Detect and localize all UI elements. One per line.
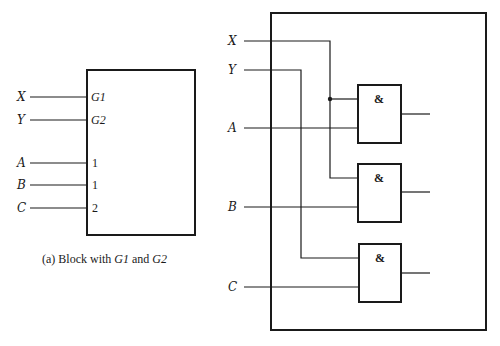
wire-y (244, 70, 359, 258)
caption-g1: G1 (114, 252, 129, 266)
input-label-y: Y (228, 63, 237, 77)
pin-label-a: 1 (92, 156, 98, 170)
input-label-c: C (228, 280, 237, 294)
input-label-x: X (16, 90, 26, 104)
block-a: X G1 Y G2 A 1 B 1 C 2 (a) Block wit (16, 70, 195, 266)
pin-label-g2: G2 (91, 113, 106, 127)
junction-dot (328, 97, 332, 101)
diagram-canvas: X G1 Y G2 A 1 B 1 C 2 (a) Block wit (0, 0, 500, 346)
block-a-input-x: X G1 (16, 90, 106, 104)
caption-middle: and (129, 252, 152, 266)
pin-label-c: 2 (92, 201, 98, 215)
input-label-a: A (16, 156, 26, 170)
input-label-b: B (16, 178, 26, 192)
pin-label-g1: G1 (91, 90, 106, 104)
input-label-b: B (227, 200, 237, 214)
pin-label-b: 1 (92, 178, 98, 192)
caption-g2: G2 (152, 252, 167, 266)
block-a-input-y: Y G2 (17, 113, 106, 127)
and-symbol: & (375, 251, 385, 265)
input-label-y: Y (17, 113, 26, 127)
block-a-input-c: C 2 (17, 201, 98, 215)
and-gate-2: & (358, 164, 430, 222)
and-symbol: & (374, 92, 384, 106)
block-a-input-b: B 1 (16, 178, 98, 192)
block-b: X Y A B C & & & (227, 13, 486, 330)
block-a-input-a: A 1 (16, 156, 98, 170)
input-label-a: A (227, 121, 237, 135)
and-gate-1: & (358, 85, 430, 143)
caption-prefix: (a) Block with (42, 252, 114, 266)
and-gate-3: & (359, 244, 430, 302)
and-symbol: & (374, 171, 384, 185)
input-label-x: X (227, 34, 237, 48)
block-a-caption: (a) Block with G1 and G2 (42, 252, 167, 266)
input-label-c: C (17, 201, 26, 215)
